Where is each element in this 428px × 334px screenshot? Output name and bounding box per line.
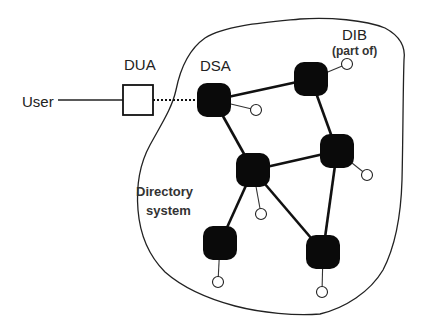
dua-box[interactable] <box>123 85 153 115</box>
dsa-node[interactable] <box>294 62 328 96</box>
dib-circle[interactable] <box>251 105 262 116</box>
dib-circle[interactable] <box>342 59 353 70</box>
dua-label: DUA <box>124 56 156 73</box>
dib-circle[interactable] <box>362 170 373 181</box>
dib-circle[interactable] <box>213 277 224 288</box>
dsa-node[interactable] <box>203 226 237 260</box>
dib-label: DIB <box>342 26 367 43</box>
directory-system-label-line1: Directory <box>136 184 194 199</box>
dib-sub-label: (part of) <box>332 44 377 58</box>
dsa-node[interactable] <box>236 153 270 187</box>
dsa-node[interactable] <box>306 235 340 269</box>
dsa-node-entry[interactable] <box>197 83 231 117</box>
directory-system-label-line2: system <box>146 203 191 218</box>
user-label: User <box>22 93 54 110</box>
dsa-label: DSA <box>200 57 231 74</box>
dsa-node[interactable] <box>320 134 354 168</box>
directory-diagram: User DUA DSA DIB (part of) Directory sys… <box>0 0 428 334</box>
dib-circle[interactable] <box>317 287 328 298</box>
dib-circle[interactable] <box>256 209 267 220</box>
